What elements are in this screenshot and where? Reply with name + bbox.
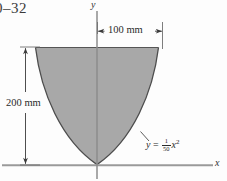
equation-exponent: 2 bbox=[176, 139, 180, 146]
figure-container: 0–32 y x 100 mm 200 mm y = 1 50 x 2 bbox=[0, 0, 227, 181]
equation-fraction: 1 50 bbox=[162, 138, 171, 152]
equation-variable: y bbox=[146, 140, 150, 150]
fraction-numerator: 1 bbox=[164, 138, 169, 145]
curve-equation: y = 1 50 x 2 bbox=[146, 138, 180, 152]
equation-equals-sign: = bbox=[153, 140, 159, 150]
fraction-denominator: 50 bbox=[162, 146, 171, 153]
problem-number: 0–32 bbox=[0, 1, 27, 16]
dimension-left-label: 200 mm bbox=[6, 98, 41, 109]
dimension-top-label: 100 mm bbox=[108, 25, 143, 36]
x-axis-label: x bbox=[215, 158, 219, 168]
y-axis-label: y bbox=[91, 0, 95, 10]
